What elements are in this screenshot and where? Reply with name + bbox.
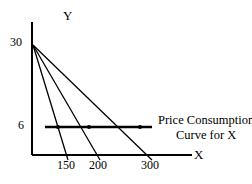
x-axis-label: X — [194, 148, 203, 161]
price-consumption-curve-annotation: Price Consumption Curve for X — [158, 113, 252, 143]
x-tick-label-150: 150 — [57, 159, 75, 171]
annotation-line-2: Curve for X — [158, 128, 252, 143]
budget-line-200 — [33, 45, 100, 160]
annotation-line-1: Price Consumption — [158, 113, 252, 128]
equilibrium-point-150 — [56, 125, 60, 129]
y-axis-label: Y — [63, 9, 72, 22]
equilibrium-point-300 — [138, 125, 142, 129]
price-consumption-curve-figure: Y X 30 6 150 200 300 Price Consumption C… — [0, 0, 252, 184]
chart-canvas — [0, 0, 252, 184]
x-tick-label-200: 200 — [89, 159, 107, 171]
y-tick-label-30: 30 — [10, 36, 22, 48]
equilibrium-point-200 — [87, 125, 91, 129]
x-tick-label-300: 300 — [141, 159, 159, 171]
y-tick-label-6: 6 — [18, 119, 24, 131]
